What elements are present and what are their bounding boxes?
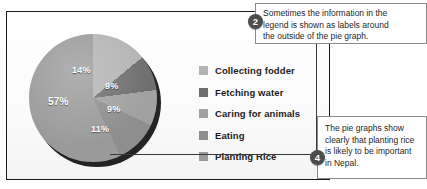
annotation-line: Sometimes the information in the (263, 8, 421, 20)
legend-item-label: Eating (215, 130, 245, 141)
pie-slice-label-eating: 11% (91, 124, 109, 134)
annotation-callout-planting-rice: The pie graphs show clearly that plantin… (317, 116, 427, 179)
annotation-line: the outside of the pie graph. (263, 31, 421, 43)
legend-item-caring-for-animals: Caring for animals (199, 103, 331, 125)
legend-item-collecting-fodder: Collecting fodder (199, 60, 331, 82)
annotation-line: legend is shown as labels around (263, 20, 421, 32)
legend-swatch-icon (199, 109, 208, 118)
annotation-callout-legend-labels: Sometimes the information in the legend … (255, 3, 427, 44)
annotation-line: is likely to be important (325, 146, 421, 158)
pie-slice-label-fetching-water: 9% (105, 81, 118, 91)
legend-item-label: Collecting fodder (215, 65, 295, 76)
legend-item-label: Planting Rice (215, 151, 276, 162)
pie-slice-label-collecting-fodder: 14% (72, 65, 91, 75)
annotation-marker-2: 2 (248, 14, 263, 29)
legend-item-eating: Eating (199, 125, 331, 147)
pie-chart: 14% 9% 9% 11% 57% (29, 34, 161, 166)
legend-item-fetching-water: Fetching water (199, 82, 331, 104)
annotation-line: clearly that planting rice (325, 135, 421, 147)
callout-leader-line-horizontal (110, 154, 316, 155)
legend-item-label: Caring for animals (215, 108, 300, 119)
legend-swatch-icon (199, 88, 208, 97)
legend-swatch-icon (199, 66, 208, 75)
legend-swatch-icon (199, 131, 208, 140)
annotation-marker-4: 4 (310, 150, 325, 165)
pie-slice-label-caring-for-animals: 9% (107, 104, 120, 114)
pie-slice-label-planting-rice: 57% (48, 96, 69, 107)
annotation-line: in Nepal. (325, 158, 421, 170)
legend-item-label: Fetching water (215, 87, 283, 98)
annotation-line: The pie graphs show (325, 123, 421, 135)
figure-root: 14% 9% 9% 11% 57% Collecting fodder Fetc… (0, 0, 427, 189)
